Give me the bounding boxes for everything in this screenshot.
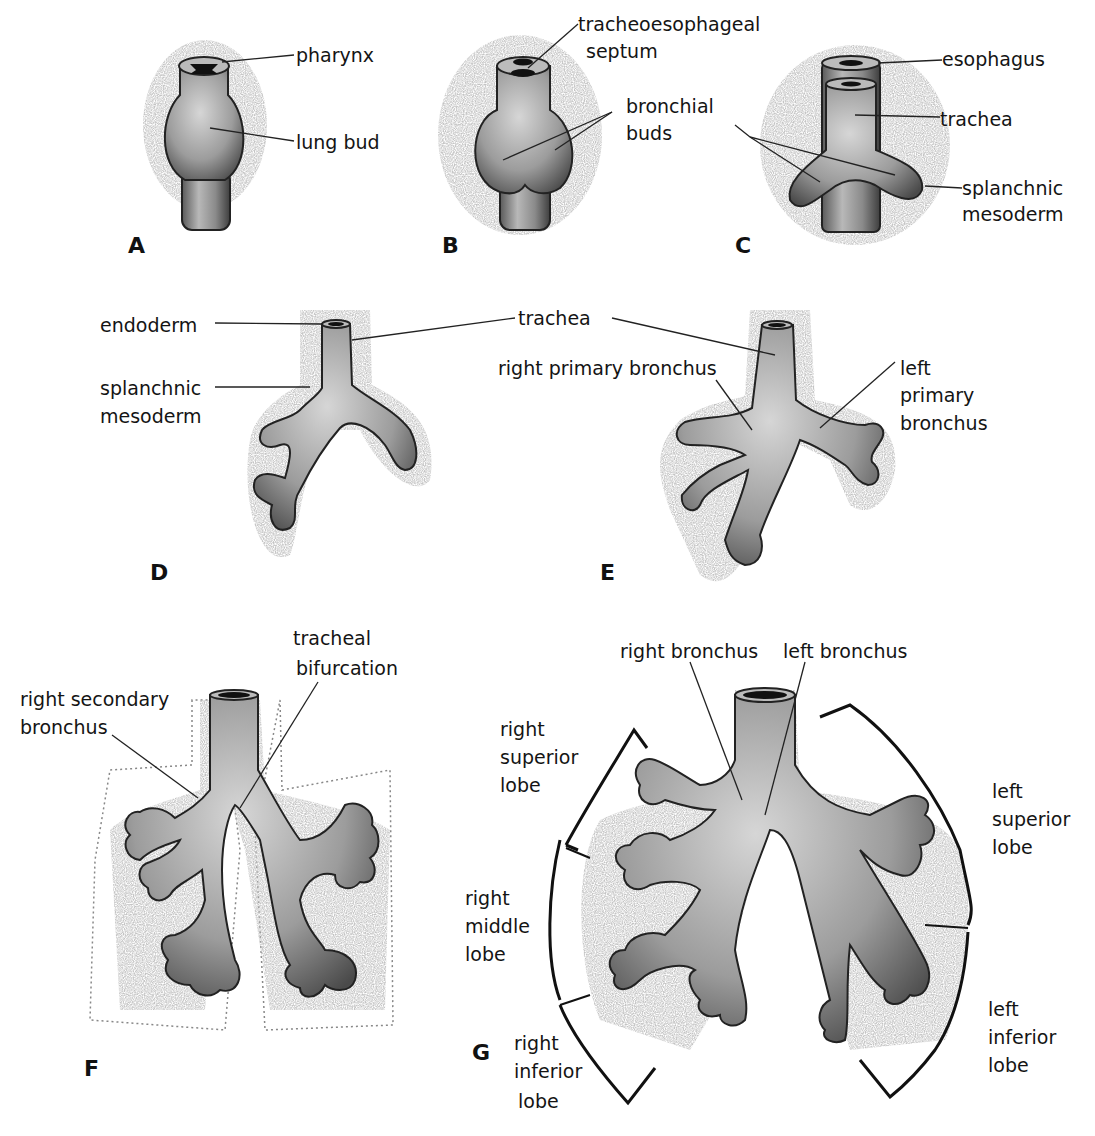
panel-letter-f: F [84,1056,99,1081]
label-left-superior-1: left [992,780,1023,803]
label-left-inferior-1: left [988,998,1019,1021]
label-splanchnic-c: splanchnic [962,177,1063,200]
label-splanchnic-d: splanchnic [100,377,201,400]
label-right-secondary: right secondary [20,688,169,711]
panel-e-artwork [660,310,895,581]
label-left-superior-2: superior [992,808,1070,831]
panel-a-artwork [143,40,267,230]
label-right-inferior-2: inferior [514,1060,582,1083]
label-right-superior-1: right [500,718,545,741]
label-left-inferior-2: inferior [988,1026,1056,1049]
label-buds: buds [626,122,672,145]
label-pharynx: pharynx [296,44,374,67]
label-mesoderm-d: mesoderm [100,405,201,428]
panel-letter-a: A [128,233,145,258]
panel-g-artwork [550,688,971,1103]
label-trachea-c: trachea [940,108,1013,131]
label-right-superior-2: superior [500,746,578,769]
label-tracheoesophageal: tracheoesophageal [578,13,760,36]
panel-c-artwork [760,45,950,245]
label-primary-e: primary [900,384,974,407]
panel-f-artwork [90,690,393,1030]
panel-letter-c: C [735,233,751,258]
label-bronchial: bronchial [626,95,714,118]
label-left-inferior-3: lobe [988,1054,1029,1077]
label-right-middle-3: lobe [465,943,506,966]
label-tracheal: tracheal [293,627,371,650]
label-right-inferior-1: right [514,1032,559,1055]
panel-letter-e: E [600,560,615,585]
label-left-bronchus: left bronchus [783,640,907,663]
label-bifurcation: bifurcation [296,657,398,680]
panel-letter-b: B [442,233,459,258]
respiratory-development-figure: A B C D E F G pharynx lung bud tracheoes… [0,0,1095,1136]
label-trachea-e: trachea [518,307,591,330]
label-lung-bud: lung bud [296,131,380,154]
label-bronchus-e: bronchus [900,412,988,435]
label-left-e: left [900,357,931,380]
label-bronchus-f: bronchus [20,716,108,739]
panel-letter-g: G [472,1040,490,1065]
label-right-middle-2: middle [465,915,530,938]
label-mesoderm-c: mesoderm [962,203,1063,226]
label-right-primary-bronchus: right primary bronchus [498,357,717,380]
label-left-superior-3: lobe [992,836,1033,859]
label-right-inferior-3: lobe [518,1090,559,1113]
label-right-superior-3: lobe [500,774,541,797]
label-esophagus: esophagus [942,48,1045,71]
label-right-middle-1: right [465,887,510,910]
panel-d-artwork [247,310,431,557]
label-right-bronchus: right bronchus [620,640,758,663]
panel-letter-d: D [150,560,168,585]
label-septum: septum [586,40,658,63]
label-endoderm: endoderm [100,314,197,337]
